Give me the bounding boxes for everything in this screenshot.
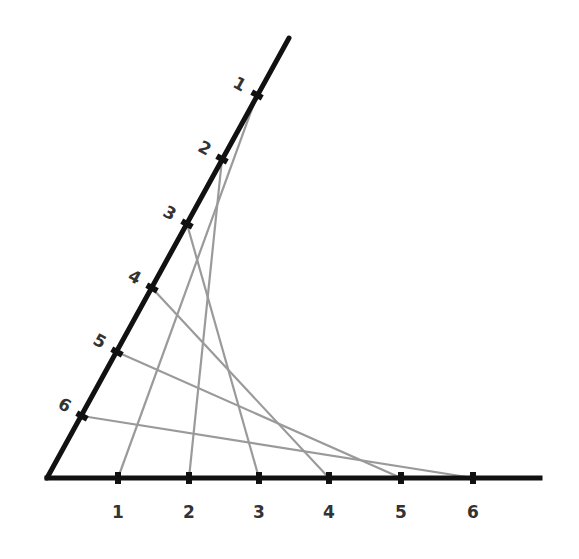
slanted-tick-label: 4 xyxy=(125,265,145,288)
tick-labels: 123456123456 xyxy=(55,72,479,522)
horizontal-tick-label: 6 xyxy=(467,502,479,522)
horizontal-tick xyxy=(398,472,404,484)
horizontal-tick xyxy=(326,472,332,484)
horizontal-tick xyxy=(256,472,262,484)
horizontal-tick-label: 1 xyxy=(112,502,124,522)
horizontal-tick-label: 4 xyxy=(323,502,335,522)
string-line xyxy=(152,288,329,478)
horizontal-tick-label: 3 xyxy=(253,502,265,522)
slanted-tick-label: 3 xyxy=(160,201,180,224)
horizontal-tick xyxy=(186,472,192,484)
string-line xyxy=(82,416,473,478)
string-lines xyxy=(82,95,473,478)
axes xyxy=(47,38,540,478)
slanted-tick-label: 5 xyxy=(90,329,110,352)
string-art-diagram: 123456123456 xyxy=(0,0,579,559)
slanted-tick-label: 2 xyxy=(195,136,215,159)
string-line xyxy=(187,224,259,478)
horizontal-tick xyxy=(470,472,476,484)
horizontal-tick xyxy=(115,472,121,484)
slanted-tick-label: 6 xyxy=(55,393,75,416)
string-line xyxy=(118,95,257,478)
horizontal-tick-label: 5 xyxy=(395,502,407,522)
slanted-tick-label: 1 xyxy=(230,72,250,95)
horizontal-tick-label: 2 xyxy=(183,502,195,522)
